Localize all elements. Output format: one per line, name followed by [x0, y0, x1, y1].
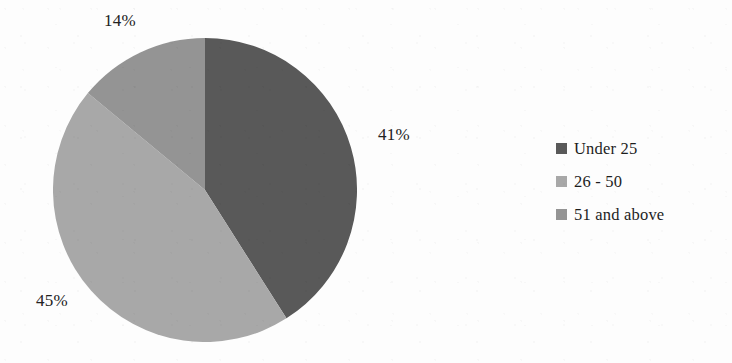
legend-swatch-icon	[556, 176, 567, 187]
data-label-under-25: 41%	[378, 125, 410, 145]
legend-label-26-50: 26 - 50	[574, 173, 622, 190]
data-label-51-and-above: 14%	[104, 11, 136, 31]
legend-item-51-and-above: 51 and above	[556, 206, 664, 223]
legend-swatch-icon	[556, 143, 567, 154]
legend-label-under-25: Under 25	[574, 140, 637, 157]
legend-swatch-icon	[556, 209, 567, 220]
chart-legend: Under 25 26 - 50 51 and above	[556, 140, 664, 223]
pie-chart-figure: 14% 41% 45% Under 25 26 - 50 51 and abov…	[0, 0, 732, 363]
pie-svg	[53, 38, 357, 342]
legend-item-26-50: 26 - 50	[556, 173, 664, 190]
pie-chart-graphic	[53, 38, 357, 342]
legend-item-under-25: Under 25	[556, 140, 664, 157]
data-label-26-50: 45%	[36, 291, 68, 311]
legend-label-51-and-above: 51 and above	[574, 206, 664, 223]
